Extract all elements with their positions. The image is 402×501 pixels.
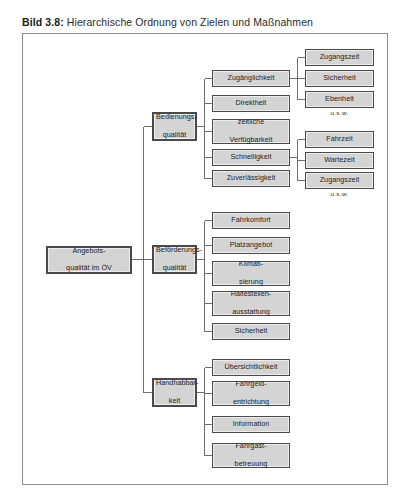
- node-label: Zugangszeit: [308, 53, 371, 62]
- node-label-line1: Beförderungs-: [156, 246, 193, 255]
- node-zeitliche-verfuegbarkeit: zeitliche Verfügbarkeit: [212, 119, 290, 144]
- node-label-line2: Verfügbarkeit: [215, 136, 287, 145]
- node-label: Fahrzeit: [308, 135, 371, 144]
- node-label-line1: Bedienungs-: [156, 113, 193, 122]
- usw-label-schnelligkeit: u.s.w.: [305, 190, 374, 197]
- node-sicherheit-befoerderung: Sicherheit: [212, 323, 290, 340]
- node-fahrgeldentrichtung: Fahrgeld- entrichtung: [212, 381, 290, 406]
- node-label: Ebenheit: [308, 95, 371, 104]
- node-label-line2: betreuung: [215, 460, 287, 469]
- node-fahrgastbetreuung: Fahrgast- betreuung: [212, 443, 290, 468]
- node-label: Wartezeit: [308, 156, 371, 165]
- node-label-line2: qualität: [156, 264, 193, 273]
- node-label-line2: entrichtung: [215, 398, 287, 407]
- node-handhabbarkeit: Handhabbar- keit: [152, 378, 197, 407]
- node-label: Schnelligkeit: [215, 153, 287, 162]
- node-fahrkomfort: Fahrkomfort: [212, 212, 290, 229]
- node-zuverlaessigkeit: Zuverlässigkeit: [212, 170, 290, 187]
- figure-number: Bild 3.8:: [22, 16, 64, 28]
- node-fahrzeit: Fahrzeit: [305, 131, 374, 148]
- node-label-line1: Haltestellen-: [215, 290, 287, 299]
- figure-caption: Bild 3.8: Hierarchische Ordnung von Ziel…: [22, 16, 313, 28]
- node-label-line1: Fahrgeld-: [215, 380, 287, 389]
- node-wartezeit: Wartezeit: [305, 152, 374, 169]
- node-zugangszeit-2: Zugangszeit: [305, 172, 374, 189]
- node-label: Information: [215, 420, 287, 429]
- node-sicherheit-zugaenglichkeit: Sicherheit: [305, 70, 374, 87]
- node-label: Fahrkomfort: [215, 216, 287, 225]
- node-befoerderungsqualitaet: Beförderungs- qualität: [152, 245, 197, 274]
- node-label: Übersichtlichkeit: [215, 363, 287, 372]
- node-direktheit: Direktheit: [212, 95, 290, 112]
- node-label-line1: zeitliche: [215, 118, 287, 127]
- node-label: Direktheit: [215, 99, 287, 108]
- node-bedienungsqualitaet: Bedienungs- qualität: [152, 112, 197, 141]
- node-zugaenglichkeit: Zugänglichkeit: [212, 70, 290, 87]
- node-label: Sicherheit: [215, 327, 287, 336]
- node-label-line2: ausstattung: [215, 308, 287, 317]
- node-label: Sicherheit: [308, 74, 371, 83]
- node-label-line1: Klimati-: [215, 260, 287, 269]
- node-label: Platzangebot: [215, 241, 287, 250]
- node-label: Zuverlässigkeit: [215, 174, 287, 183]
- usw-label-zugaenglichkeit: u.s.w.: [305, 109, 374, 116]
- node-information: Information: [212, 416, 290, 433]
- figure-title: Hierarchische Ordnung von Zielen und Maß…: [67, 16, 313, 28]
- node-uebersichtlichkeit: Übersichtlichkeit: [212, 359, 290, 376]
- node-label-line1: Fahrgast-: [215, 442, 287, 451]
- node-label-line2: keit: [156, 397, 193, 406]
- node-label-line1: Angebots-: [50, 247, 128, 256]
- node-zugangszeit-1: Zugangszeit: [305, 49, 374, 66]
- node-angebotsqualitaet: Angebots- qualität im ÖV: [46, 246, 132, 274]
- node-ebenheit: Ebenheit: [305, 91, 374, 108]
- node-label-line2: qualität: [156, 131, 193, 140]
- node-label: Zugänglichkeit: [215, 74, 287, 83]
- node-label-line1: Handhabbar-: [156, 379, 193, 388]
- node-label-line2: sierung: [215, 278, 287, 287]
- node-label-line2: qualität im ÖV: [50, 264, 128, 273]
- node-schnelligkeit: Schnelligkeit: [212, 149, 290, 166]
- node-platzangebot: Platzangebot: [212, 237, 290, 254]
- node-label: Zugangszeit: [308, 176, 371, 185]
- node-klimatisierung: Klimati- sierung: [212, 261, 290, 286]
- node-haltestellenausstattung: Haltestellen- ausstattung: [212, 291, 290, 316]
